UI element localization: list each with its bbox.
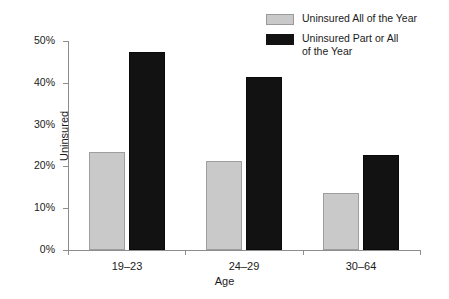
y-tick-4: 40%	[63, 83, 68, 84]
x-axis-line	[68, 250, 420, 251]
x-category-label-1: 24–29	[229, 260, 260, 272]
bar-series1-cat1	[246, 77, 282, 250]
legend-label-uninsured-all-year: Uninsured All of the Year	[302, 12, 417, 25]
legend-item-uninsured-all-year: Uninsured All of the Year	[266, 12, 446, 25]
x-category-label-2: 30–64	[346, 260, 377, 272]
bar-series0-cat2	[323, 193, 359, 250]
y-tick-1: 10%	[63, 208, 68, 209]
bar-series1-cat2	[363, 155, 399, 250]
x-tick-0	[68, 250, 69, 255]
legend-swatch-icon-light	[266, 14, 294, 25]
bar-chart: Uninsured All of the Year Uninsured Part…	[0, 0, 449, 299]
y-tick-label-0: 0%	[40, 243, 55, 255]
y-tick-5: 50%	[63, 41, 68, 42]
y-tick-label-1: 10%	[34, 201, 55, 213]
bar-series1-cat0	[129, 52, 165, 250]
x-tick-2	[303, 250, 304, 255]
x-tick-3	[420, 250, 421, 255]
y-tick-2: 20%	[63, 166, 68, 167]
y-tick-label-5: 50%	[34, 34, 55, 46]
y-tick-label-4: 40%	[34, 76, 55, 88]
y-tick-label-2: 20%	[34, 159, 55, 171]
x-category-label-0: 19–23	[112, 260, 143, 272]
x-tick-1	[185, 250, 186, 255]
plot-area: 0% 10% 20% 30% 40% 50% 19–23	[68, 41, 420, 250]
bar-series0-cat0	[89, 152, 125, 250]
y-axis-title: Uninsured	[58, 111, 70, 161]
x-axis-title: Age	[0, 275, 449, 287]
y-tick-label-3: 30%	[34, 118, 55, 130]
bar-series0-cat1	[206, 161, 242, 250]
